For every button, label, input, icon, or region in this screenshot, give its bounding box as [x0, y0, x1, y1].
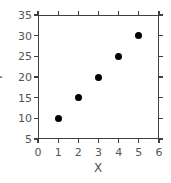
x-tick-label: 1 [55, 147, 62, 158]
y-tick-mark-right [159, 35, 163, 36]
y-tick-mark-right [159, 97, 163, 98]
x-tick-mark [98, 139, 99, 143]
y-tick-label: 5 [12, 134, 32, 145]
x-tick-mark [78, 139, 79, 143]
x-axis-title: X [94, 162, 102, 174]
x-tick-mark-top [58, 11, 59, 15]
x-tick-mark [118, 139, 119, 143]
x-tick-label: 3 [95, 147, 102, 158]
y-tick-mark-right [159, 138, 163, 139]
data-point [95, 74, 102, 81]
y-tick-mark [34, 118, 38, 119]
x-tick-label: 2 [75, 147, 82, 158]
x-tick-mark-top [138, 11, 139, 15]
y-tick-label: 10 [12, 113, 32, 124]
y-tick-mark [34, 138, 38, 139]
y-axis-title: Y [0, 73, 4, 80]
y-tick-label: 15 [12, 92, 32, 103]
y-tick-label: 25 [12, 51, 32, 62]
data-point [55, 115, 62, 122]
y-tick-label: 35 [12, 10, 32, 21]
x-tick-mark-top [98, 11, 99, 15]
x-tick-mark-top [78, 11, 79, 15]
x-tick-label: 0 [35, 147, 42, 158]
x-tick-mark [138, 139, 139, 143]
y-tick-label: 30 [12, 30, 32, 41]
y-tick-mark-right [159, 118, 163, 119]
data-point [115, 53, 122, 60]
y-tick-mark-right [159, 76, 163, 77]
x-tick-label: 5 [135, 147, 142, 158]
scatter-plot-figure: 01234565101520253035 X Y [0, 0, 171, 183]
y-tick-mark-right [159, 56, 163, 57]
x-tick-label: 4 [115, 147, 122, 158]
x-tick-label: 6 [156, 147, 163, 158]
y-tick-label: 20 [12, 72, 32, 83]
data-point [75, 94, 82, 101]
y-tick-mark [34, 35, 38, 36]
x-tick-mark-top [118, 11, 119, 15]
y-tick-mark [34, 97, 38, 98]
y-tick-mark [34, 76, 38, 77]
y-tick-mark-right [159, 14, 163, 15]
y-tick-mark [34, 14, 38, 15]
x-tick-mark [58, 139, 59, 143]
y-tick-mark [34, 56, 38, 57]
